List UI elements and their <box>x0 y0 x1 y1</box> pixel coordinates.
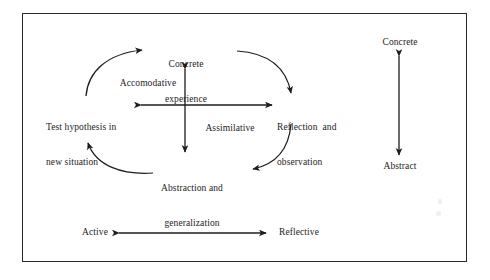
node-abstraction-generalization-line1: Abstraction and <box>148 183 236 195</box>
label-accomodative: Accomodative <box>112 78 184 90</box>
axis-label-reflective: Reflective <box>272 227 326 239</box>
node-reflection-observation-line2: observation <box>277 157 357 169</box>
label-assimilative: Assimilative <box>197 123 263 135</box>
node-concrete-experience-line2: experience <box>148 94 224 106</box>
node-test-hypothesis-line1: Test hypothesis in <box>46 122 138 134</box>
node-reflection-observation: Reflection and observation <box>277 99 357 191</box>
node-abstraction-generalization: Abstraction and generalization <box>148 160 236 252</box>
axis-label-abstract: Abstract <box>371 161 429 173</box>
node-reflection-observation-line1: Reflection and <box>277 122 357 134</box>
axis-label-active: Active <box>74 227 116 239</box>
diagram-canvas: Concrete experience Reflection and obser… <box>0 0 490 280</box>
scan-speck <box>436 211 441 216</box>
node-concrete-experience-line1: Concrete <box>148 59 224 71</box>
scan-speck <box>438 199 442 204</box>
axis-label-concrete: Concrete <box>371 37 429 49</box>
node-test-hypothesis: Test hypothesis in new situation <box>46 99 138 191</box>
node-abstraction-generalization-line2: generalization <box>148 218 236 230</box>
node-test-hypothesis-line2: new situation <box>46 157 138 169</box>
